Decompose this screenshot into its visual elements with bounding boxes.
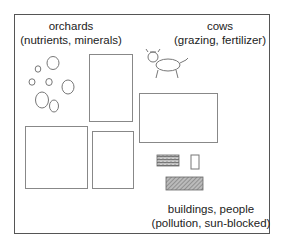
tree-circle xyxy=(35,66,41,72)
hatched-building xyxy=(166,177,203,190)
tree-circle xyxy=(29,79,35,85)
tree-circle xyxy=(50,100,59,112)
tree-circle xyxy=(62,80,74,94)
brick-building xyxy=(157,155,179,166)
buildings-icon xyxy=(157,155,203,190)
cow-icon xyxy=(146,49,188,78)
tall-building xyxy=(191,155,199,169)
diagram-canvas: orchards (nutrients, minerals) cows (gra… xyxy=(0,0,285,248)
tree-circle xyxy=(47,57,59,70)
orchard-trees-icon xyxy=(29,57,74,113)
tree-circle xyxy=(46,79,52,86)
icons-layer xyxy=(0,0,285,248)
tree-circle xyxy=(36,92,49,108)
